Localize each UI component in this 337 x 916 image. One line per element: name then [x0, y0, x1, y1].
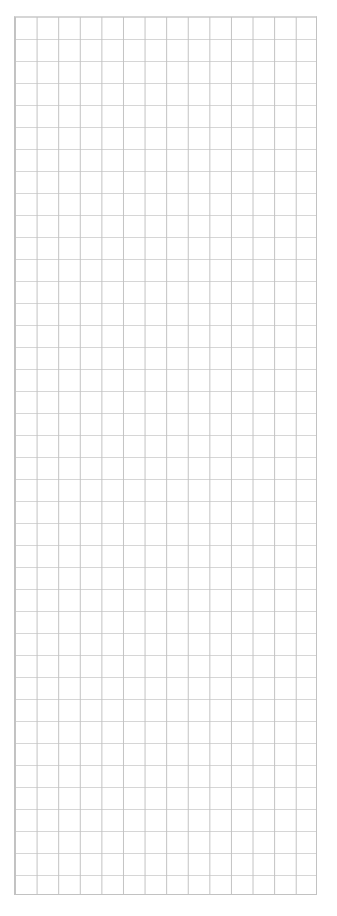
graph-paper-grid[interactable]: [14, 16, 317, 895]
canvas-root: [0, 0, 337, 916]
